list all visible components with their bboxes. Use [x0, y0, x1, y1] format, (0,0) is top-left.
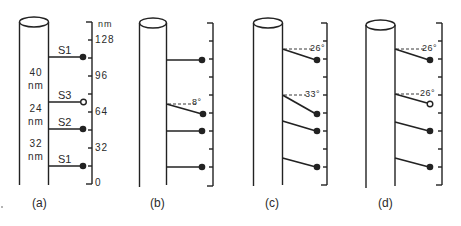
scale-tick-label: 0	[95, 178, 102, 188]
filled-dot-icon	[80, 126, 87, 133]
branch-label-s3: S3	[58, 90, 71, 101]
filled-dot-icon	[427, 128, 434, 135]
filled-dot-icon	[314, 128, 321, 135]
open-dot-icon	[81, 99, 87, 105]
branch-3-tilted	[283, 121, 317, 131]
pole-top	[366, 20, 395, 30]
open-dot-icon	[427, 101, 433, 107]
spacing-unit: nm	[25, 152, 47, 162]
scale-tick-label: 32	[95, 143, 108, 153]
panel-caption-d: (d)	[378, 197, 393, 209]
angle-label: 26°	[422, 44, 437, 53]
scale-bar	[207, 23, 213, 186]
pole-top	[140, 18, 167, 28]
angle-label: 33°	[305, 90, 320, 99]
spacing-value: 24	[25, 104, 47, 114]
filled-dot-icon	[200, 111, 207, 118]
pole-top	[254, 18, 283, 28]
angle-label: 26°	[420, 89, 435, 98]
filled-dot-icon	[199, 164, 206, 171]
scale-tick-label: 64	[95, 107, 108, 117]
pole-top	[20, 17, 49, 27]
filled-dot-icon	[314, 164, 321, 171]
spacing-value: 40	[25, 68, 47, 78]
branch-label-s1-upper: S1	[58, 45, 71, 56]
spacing-value: 32	[25, 139, 47, 149]
branch-4-tilted	[283, 158, 317, 167]
panel-caption-b: (b)	[150, 197, 165, 209]
panel-caption-a: (a)	[32, 197, 47, 209]
filled-dot-icon	[199, 57, 206, 64]
scale-bar	[86, 22, 92, 184]
filled-dot-icon	[314, 57, 321, 64]
spacing-unit: nm	[25, 117, 47, 127]
angle-label: 8°	[192, 98, 202, 107]
filled-dot-icon	[80, 54, 87, 61]
panel-caption-c: (c)	[265, 197, 279, 209]
branch-4-tilted	[395, 158, 429, 167]
diagram-canvas	[0, 0, 461, 226]
filled-dot-icon	[427, 164, 434, 171]
stray-mark	[1, 206, 3, 208]
angle-label: 26°	[310, 44, 325, 53]
filled-dot-icon	[427, 57, 434, 64]
scale-tick-label: 96	[95, 71, 108, 81]
scale-tick-label: 128	[95, 35, 115, 45]
branch-label-s2: S2	[58, 117, 71, 128]
scale-unit-label: nm	[98, 20, 113, 29]
branch-label-s1-lower: S1	[58, 154, 71, 165]
branch-3-tilted	[395, 122, 429, 131]
spacing-unit: nm	[25, 81, 47, 91]
filled-dot-icon	[80, 163, 87, 170]
filled-dot-icon	[199, 128, 206, 135]
panel-b-drawing	[140, 18, 214, 187]
filled-dot-icon	[314, 111, 321, 118]
